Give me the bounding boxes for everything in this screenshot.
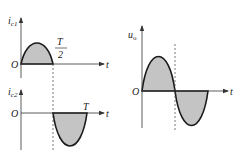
ic2-y-label: ic2 <box>8 86 18 99</box>
uo-y-label: uo <box>128 29 137 42</box>
ic1-positive-lobe <box>21 43 53 64</box>
ic1-x-label: t <box>106 59 109 70</box>
ic1-half-period-denominator: 2 <box>58 49 63 60</box>
ic1-y-label: ic1 <box>8 15 17 28</box>
uo-positive-lobe <box>142 57 175 92</box>
plot-ic1: ic1 O t T 2 <box>8 15 109 78</box>
ic1-origin-label: O <box>11 59 18 70</box>
uo-negative-lobe <box>175 91 208 126</box>
plot-ic2: ic2 O t T <box>8 86 109 150</box>
plot-uo: uo O t <box>128 26 233 130</box>
ic2-origin-label: O <box>11 108 18 119</box>
ic2-period-label: T <box>83 101 90 112</box>
ic2-negative-lobe <box>53 113 87 146</box>
ic1-half-period-numerator: T <box>57 36 64 47</box>
waveform-diagram: ic1 O t T 2 ic2 O t T uo O t <box>0 0 241 155</box>
ic2-x-label: t <box>106 108 109 119</box>
uo-origin-label: O <box>132 86 139 97</box>
uo-x-label: t <box>230 86 233 97</box>
